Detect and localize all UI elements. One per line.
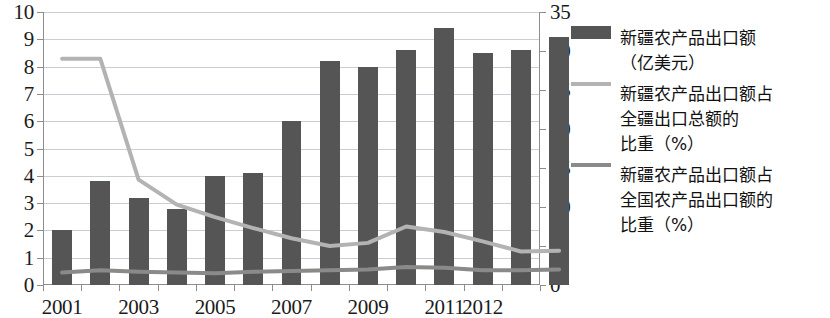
x-axis-tick-label: 2001 (32, 295, 92, 318)
y-axis-left-tick-label: 4 (0, 166, 34, 187)
legend-line-swatch-icon (570, 82, 612, 86)
x-axis-tick (272, 285, 273, 291)
y-axis-left-tick-label: 2 (0, 220, 34, 241)
x-axis-tick (349, 285, 350, 291)
x-axis-tick (311, 285, 312, 291)
legend-bar-swatch-icon (570, 26, 612, 39)
y-axis-left-tick-label: 6 (0, 111, 34, 132)
legend-item[interactable]: 新疆农产品出口额 （亿美元） (570, 26, 830, 76)
y-axis-right-tick (540, 90, 546, 91)
x-axis-tick (425, 285, 426, 291)
y-axis-left-tick-label: 9 (0, 29, 34, 50)
legend-item[interactable]: 新疆农产品出口额占 全疆出口总额的 比重（%） (570, 82, 830, 157)
y-axis-right-tick (540, 207, 546, 208)
y-axis-left-tick-label: 5 (0, 139, 34, 160)
plot-area (43, 12, 540, 285)
y-axis-left-tick-label: 3 (0, 193, 34, 214)
x-axis-tick (502, 285, 503, 291)
y-axis-right-tick (540, 168, 546, 169)
x-axis-tick-label: 2005 (185, 295, 245, 318)
y-axis-left-tick-label: 10 (0, 2, 34, 23)
bar (549, 37, 569, 285)
x-axis-tick-label: 2009 (338, 295, 398, 318)
plot-wrapper: 012345678910 05101520253035 200120032005… (0, 0, 578, 312)
x-axis-tick-label: 2012 (453, 295, 513, 318)
x-axis-tick (196, 285, 197, 291)
legend-item-label: 新疆农产品出口额 （亿美元） (620, 26, 756, 76)
x-axis-tick (464, 285, 465, 291)
y-axis-left-tick-label: 7 (0, 84, 34, 105)
x-axis-tick (119, 285, 120, 291)
y-axis-right-tick (540, 12, 546, 13)
y-axis-left-tick-label: 8 (0, 57, 34, 78)
x-axis-tick-label: 2003 (109, 295, 169, 318)
chart-legend: 新疆农产品出口额 （亿美元）新疆农产品出口额占 全疆出口总额的 比重（%）新疆农… (570, 26, 830, 244)
y-axis-left-tick-label: 0 (0, 275, 34, 296)
x-axis-tick (81, 285, 82, 291)
y-axis-left-tick-label: 1 (0, 248, 34, 269)
x-axis-tick (234, 285, 235, 291)
line-path (62, 59, 559, 252)
legend-item-label: 新疆农产品出口额占 全疆出口总额的 比重（%） (620, 82, 773, 157)
x-axis-tick (158, 285, 159, 291)
line-path (62, 267, 559, 273)
legend-item-label: 新疆农产品出口额占 全国农产品出口额的 比重（%） (620, 163, 773, 238)
x-axis-tick-label: 2007 (262, 295, 322, 318)
x-axis-tick (540, 285, 541, 291)
y-axis-right-tick (540, 246, 546, 247)
legend-item[interactable]: 新疆农产品出口额占 全国农产品出口额的 比重（%） (570, 163, 830, 238)
x-axis-tick (387, 285, 388, 291)
y-axis-right-tick (540, 129, 546, 130)
y-axis-right-tick (540, 51, 546, 52)
line-series (43, 12, 540, 285)
x-axis-tick (43, 285, 44, 291)
y-axis-right-tick-label: 35 (550, 2, 570, 23)
legend-line-swatch-icon (570, 163, 612, 167)
